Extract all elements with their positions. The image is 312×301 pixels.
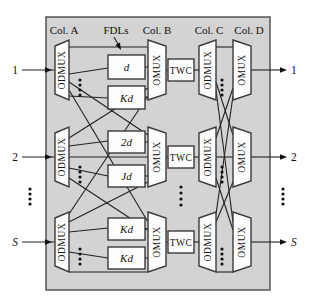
fdl-label-kd2: Kd [119,223,133,235]
input-label-1: 1 [12,64,18,76]
optical-switch-diagram: 1 2 S 1 2 S Col. A FDLs Col. B Col. C Co… [0,0,312,301]
output-label-2: 2 [291,151,297,163]
omux-d2-label: OMUX [237,141,247,172]
fdl-box-row3-top: Kd [108,218,145,240]
output-label-1: 1 [291,64,297,76]
omux-b2-label: OMUX [152,141,162,172]
ellipsis-right-margin [281,187,284,205]
omux-d3-label: OMUX [237,226,247,257]
twc-2: TWC [168,146,194,168]
header-col-b: Col. B [143,24,172,36]
twc-1: TWC [168,59,194,81]
input-label-2: 2 [12,151,18,163]
fdl-label-kd1: Kd [119,92,133,104]
header-col-c: Col. C [195,24,224,36]
omux-b3: OMUX [148,212,166,272]
odmux-c3: ODMUX [199,212,216,272]
odmux-a1: ODMUX [55,40,69,100]
twc-3: TWC [168,231,194,253]
odmux-a1-label: ODMUX [57,51,67,90]
odmux-a3: ODMUX [55,212,69,272]
fdl-label-kd3: Kd [119,252,133,264]
omux-b1-label: OMUX [152,54,162,85]
fdl-label-jd: Jd [121,170,132,182]
fdl-box-row1-top: d [108,55,145,79]
output-arrowhead-s [280,239,287,245]
diagram-canvas: 1 2 S 1 2 S Col. A FDLs Col. B Col. C Co… [0,0,312,301]
omux-d3: OMUX [233,212,251,272]
fdl-label-2d: 2d [121,136,133,148]
output-arrowhead-2 [280,154,287,160]
odmux-c2-label: ODMUX [203,138,213,177]
input-label-s: S [12,236,18,248]
header-col-a: Col. A [50,24,79,36]
omux-d1: OMUX [233,40,251,100]
fdl-box-row2-bottom: Jd [108,165,145,187]
fdl-box-row2-top: 2d [108,131,145,153]
fdl-box-row3-bottom: Kd [108,247,145,269]
odmux-c3-label: ODMUX [203,223,213,262]
odmux-c2: ODMUX [199,127,216,187]
twc-3-label: TWC [170,238,192,248]
header-fdls: FDLs [103,24,128,36]
odmux-a3-label: ODMUX [57,223,67,262]
odmux-c1: ODMUX [199,40,216,100]
output-arrowhead-1 [280,67,287,73]
odmux-a2-label: ODMUX [57,138,67,177]
ellipsis-left-margin [28,187,31,205]
odmux-a2: ODMUX [55,127,69,187]
omux-b3-label: OMUX [152,226,162,257]
twc-2-label: TWC [170,153,192,163]
output-label-s: S [291,236,297,248]
omux-d1-label: OMUX [237,54,247,85]
omux-b2: OMUX [148,127,166,187]
fdl-box-row1-bottom: Kd [108,86,145,109]
twc-1-label: TWC [170,66,192,76]
omux-b1: OMUX [148,40,166,100]
fdl-label-d: d [124,61,130,73]
odmux-c1-label: ODMUX [203,51,213,90]
header-col-d: Col. D [234,24,263,36]
omux-d2: OMUX [233,127,251,187]
